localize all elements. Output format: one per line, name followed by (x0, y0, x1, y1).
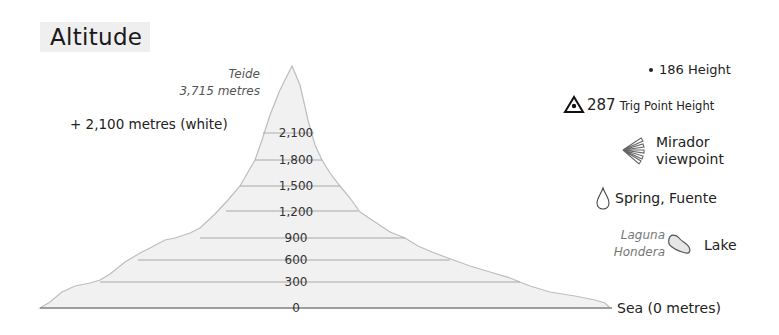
trig-point-icon (565, 97, 583, 112)
legend-spring: Spring, Fuente (615, 190, 717, 206)
legend-trig-point: 287 Trig Point Height (587, 96, 714, 114)
legend-height: 186 Height (659, 62, 731, 77)
legend-lake-name: Laguna Hondera (600, 227, 665, 261)
contour-label-0: 0 (271, 301, 321, 315)
legend-mirador: Mirador viewpoint (656, 134, 724, 168)
legend-trig-value: 287 (587, 96, 616, 114)
lake-name-line2: Hondera (600, 244, 665, 261)
legend-trig-label: Trig Point Height (620, 99, 714, 113)
mountain-shape (40, 66, 610, 308)
water-drop-icon (597, 188, 609, 209)
legend-height-label: Height (688, 62, 731, 77)
legend-height-value: 186 (659, 62, 684, 77)
legend-lake-label: Lake (704, 237, 737, 253)
contour-label-900: 900 (271, 231, 321, 245)
contour-label-1200: 1,200 (271, 205, 321, 219)
lake-name-line1: Laguna (600, 227, 665, 244)
contour-label-300: 300 (271, 275, 321, 289)
contour-label-600: 600 (271, 253, 321, 267)
dot-icon (649, 68, 653, 72)
contour-label-1500: 1,500 (271, 179, 321, 193)
lake-shape-icon (669, 235, 690, 253)
contour-label-2100: 2,100 (271, 126, 321, 140)
legend-mirador-line2: viewpoint (656, 151, 724, 168)
legend-mirador-line1: Mirador (656, 134, 724, 151)
contour-label-1800: 1,800 (271, 153, 321, 167)
legend-sea: Sea (0 metres) (617, 300, 721, 316)
viewpoint-fan-icon (623, 138, 644, 164)
